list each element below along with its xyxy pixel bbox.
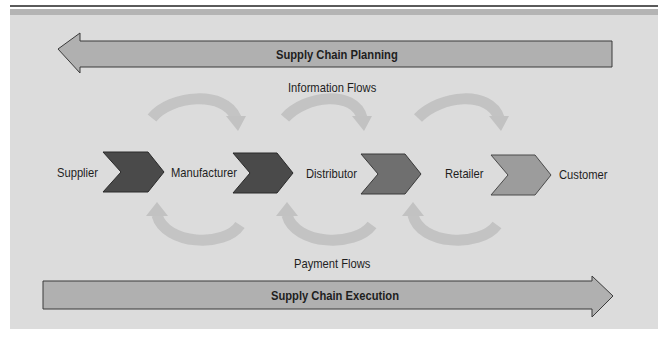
payment-flow-arrow-3 (413, 215, 497, 240)
chevron-retailer-customer (491, 155, 551, 195)
chevron-distributor-retailer (361, 154, 421, 194)
payment-flow-arrows (157, 215, 497, 240)
information-flow-arrowheads (226, 116, 509, 131)
chevron-supplier-manufacturer (103, 152, 164, 192)
node-customer: Customer (559, 167, 607, 182)
chevron-manufacturer-distributor (233, 153, 293, 193)
information-flows-label: Information Flows (288, 80, 376, 95)
payment-flow-arrowheads (146, 202, 424, 216)
info-flow-arrow-3 (418, 99, 499, 118)
payment-flow-arrow-1 (157, 215, 240, 240)
planning-label: Supply Chain Planning (276, 47, 398, 62)
payment-flows-label: Payment Flows (294, 256, 370, 271)
information-flow-arrows (152, 99, 499, 118)
info-flow-arrow-2 (285, 99, 362, 118)
node-supplier: Supplier (57, 165, 98, 180)
node-retailer: Retailer (445, 166, 484, 181)
node-manufacturer: Manufacturer (171, 165, 237, 180)
node-distributor: Distributor (306, 166, 357, 181)
payment-flow-arrow-2 (287, 215, 372, 240)
info-flow-arrow-1 (152, 99, 236, 118)
execution-label: Supply Chain Execution (271, 288, 399, 303)
